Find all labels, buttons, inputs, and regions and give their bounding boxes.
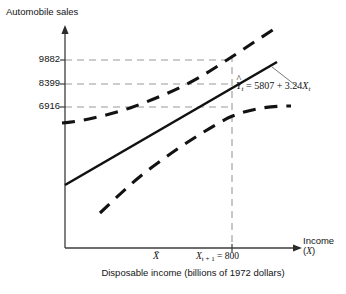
ytick-label-6916: 6916 [18,101,60,111]
figure-caption: Disposable income (billions of 1972 doll… [63,268,323,278]
x-forecast-symbol: X [196,251,202,261]
chart-plot-area [0,0,346,294]
regression-forecast-chart: Automobile sales 9882 8399 6916 X̄ Xt + … [0,0,346,294]
x-axis-title-line2: (X) [303,246,334,257]
x-forecast-value: = 800 [217,251,239,261]
x-axis-title-line1: Income [303,236,334,246]
x-forecast-subscript: t + 1 [202,255,215,263]
lower-confidence-band [100,106,291,213]
upper-confidence-band [62,26,279,123]
y-axis-arrowhead [61,25,68,34]
x-axis-title: Income (X) [303,236,334,257]
x-mean-label: X̄ [153,251,159,262]
regression-equation-label: Yt = 5807 + 3.24Xt [236,81,310,92]
equation-response-symbol: Y [236,81,242,92]
x-axis-arrowhead [293,244,302,251]
equation-response-subscript: t [242,85,244,93]
ytick-label-8399: 8399 [18,78,60,88]
x-forecast-label: Xt + 1 = 800 [196,252,239,262]
y-axis-title: Automobile sales [6,7,78,17]
equation-body: = 5807 + 3.24 [244,80,303,91]
x-axis-paren-close: ) [312,245,315,256]
ytick-label-9882: 9882 [18,54,60,64]
